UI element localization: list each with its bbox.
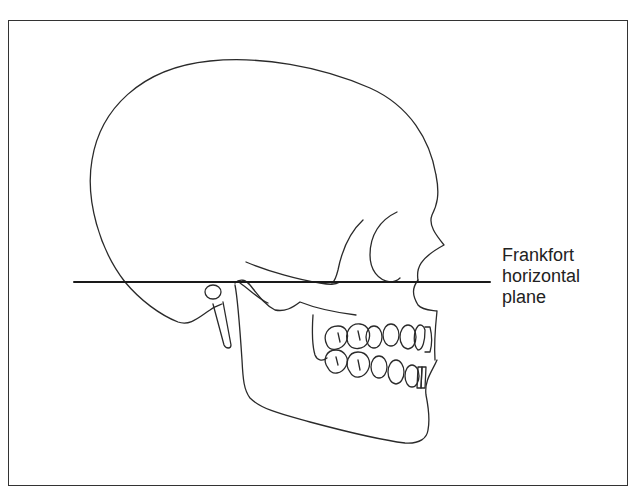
upper-teeth [325,324,431,352]
label-line-2: horizontal [502,266,580,287]
label-line-3: plane [502,287,580,308]
mandible-outline [235,285,437,443]
articular-process [235,280,356,315]
lower-teeth [325,350,426,388]
frankfort-plane-label: Frankfort horizontal plane [502,245,580,308]
cranium-outline [90,60,444,282]
orbit-posterior [332,220,363,283]
orbit-anterior [370,212,400,282]
ear-canal-icon [205,285,221,299]
condyle-notch [240,283,268,303]
styloid-process [213,302,231,348]
occipital-base [125,282,222,323]
label-line-1: Frankfort [502,245,580,266]
